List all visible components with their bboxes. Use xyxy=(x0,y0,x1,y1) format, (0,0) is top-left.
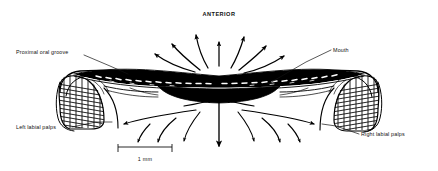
flow-arrow-up-left-outer xyxy=(155,54,195,72)
flow-arrow-up-right-inner xyxy=(231,37,244,68)
figure-root: ANTERIOR xyxy=(0,0,438,171)
right-labial-palp xyxy=(332,74,382,136)
flow-arrow-down-left-arc-inner xyxy=(184,112,200,141)
left-labial-palp xyxy=(56,74,106,136)
upper-flow-arrows xyxy=(155,35,284,73)
scale-bar-label: 1 mm xyxy=(138,156,153,162)
flow-arrow-down-right-long xyxy=(242,110,314,124)
flow-arrow-down-right-arc-outer xyxy=(288,124,300,142)
proximal-oral-groove xyxy=(74,69,364,88)
leader-left-labial-palps xyxy=(72,122,112,127)
flow-arrow-down-left-arc-mid xyxy=(158,118,176,142)
right-labial-palps-label: Right labial palps xyxy=(361,131,405,137)
right-palp-hatching xyxy=(332,74,380,136)
leader-right-labial-palps xyxy=(322,124,359,134)
flow-arrow-down-right-arc-mid xyxy=(262,118,280,142)
flow-arrow-up-right-mid xyxy=(239,46,266,70)
flow-arrow-down-right-arc-inner xyxy=(238,112,254,141)
scale-bar: 1 mm xyxy=(118,144,172,162)
left-labial-palps-label: Left labial palps xyxy=(16,124,56,130)
lower-flow-arrows xyxy=(124,100,314,146)
flow-arrow-down-left-arc-outer xyxy=(138,124,150,142)
flow-arrow-down-left-long xyxy=(124,110,196,124)
anterior-label: ANTERIOR xyxy=(203,11,236,17)
anatomical-diagram: ANTERIOR xyxy=(0,0,438,171)
flow-arrow-up-left-inner xyxy=(196,35,208,68)
mouth-label: Mouth xyxy=(333,47,349,53)
proximal-oral-groove-label: Proximal oral groove xyxy=(16,49,68,55)
